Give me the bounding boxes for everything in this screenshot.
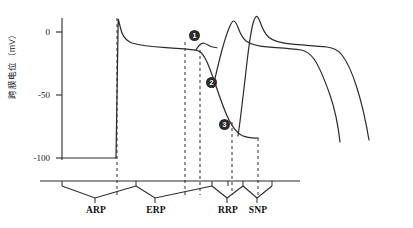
main-action-potential-curve xyxy=(116,19,258,158)
bracket-erp xyxy=(136,186,212,198)
premature-response-3-curve xyxy=(238,16,369,140)
period-label-snp: SNP xyxy=(238,205,278,215)
stimulus-marker-3: 3 xyxy=(219,119,230,130)
bracket-rrp xyxy=(212,186,243,198)
action-potential-figure: 跨膜电位（mV） 0 -50 -100 xyxy=(0,0,413,228)
bracket-arp xyxy=(62,186,136,198)
plot-canvas xyxy=(0,0,413,228)
period-label-arp: ARP xyxy=(76,205,116,215)
marker1-no-response-trace xyxy=(196,43,217,50)
period-label-erp: ERP xyxy=(136,205,176,215)
stimulus-marker-1: 1 xyxy=(189,30,200,41)
stimulus-marker-2: 2 xyxy=(206,77,217,88)
